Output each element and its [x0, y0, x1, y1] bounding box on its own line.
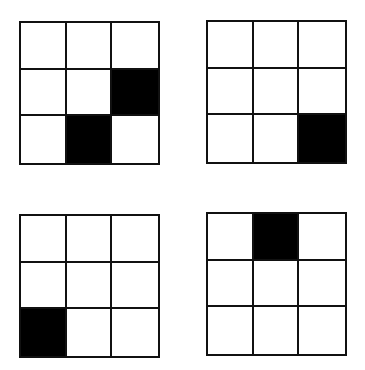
empty-cell [112, 116, 158, 163]
filled-cell [21, 309, 67, 356]
empty-cell [21, 263, 67, 310]
grid-top-right [206, 20, 347, 164]
empty-cell [21, 116, 67, 163]
empty-cell [67, 23, 113, 70]
empty-cell [112, 216, 158, 263]
empty-cell [254, 22, 300, 69]
grid-top-left [19, 21, 160, 165]
empty-cell [254, 69, 300, 116]
filled-cell [254, 214, 300, 261]
empty-cell [21, 70, 67, 117]
empty-cell [67, 216, 113, 263]
empty-cell [21, 216, 67, 263]
empty-cell [67, 263, 113, 310]
filled-cell [112, 70, 158, 117]
empty-cell [299, 214, 345, 261]
empty-cell [299, 22, 345, 69]
grid-bottom-right [206, 212, 347, 356]
empty-cell [208, 214, 254, 261]
filled-cell [299, 115, 345, 162]
grid-bottom-left [19, 214, 160, 358]
empty-cell [208, 261, 254, 308]
empty-cell [112, 309, 158, 356]
empty-cell [208, 22, 254, 69]
empty-cell [254, 261, 300, 308]
empty-cell [112, 23, 158, 70]
empty-cell [254, 115, 300, 162]
empty-cell [21, 23, 67, 70]
empty-cell [299, 307, 345, 354]
empty-cell [299, 69, 345, 116]
empty-cell [67, 309, 113, 356]
empty-cell [254, 307, 300, 354]
empty-cell [208, 307, 254, 354]
empty-cell [208, 115, 254, 162]
empty-cell [112, 263, 158, 310]
empty-cell [299, 261, 345, 308]
empty-cell [208, 69, 254, 116]
empty-cell [67, 70, 113, 117]
filled-cell [67, 116, 113, 163]
